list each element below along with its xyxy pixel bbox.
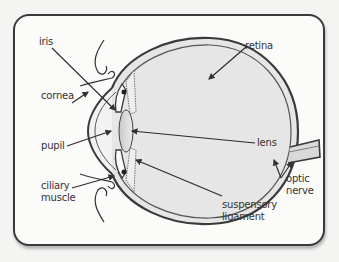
label-lens: lens xyxy=(257,137,277,149)
label-optic-nerve: optic nerve xyxy=(286,173,314,197)
label-ciliary-muscle: ciliary muscle xyxy=(41,180,76,204)
label-ciliary-muscle-line1: ciliary xyxy=(41,180,76,192)
label-suspensory-ligament: suspensory ligament xyxy=(222,199,277,223)
label-suspensory-ligament-line1: suspensory xyxy=(222,199,277,211)
lens xyxy=(119,110,133,152)
label-iris: iris xyxy=(39,36,53,48)
label-optic-nerve-line1: optic xyxy=(286,173,314,185)
diagram-canvas: iris retina cornea lens pupil optic nerv… xyxy=(0,0,339,262)
label-suspensory-ligament-line2: ligament xyxy=(222,211,277,223)
label-optic-nerve-line2: nerve xyxy=(286,185,314,197)
label-cornea: cornea xyxy=(41,90,74,102)
label-retina: retina xyxy=(245,40,273,52)
label-pupil: pupil xyxy=(41,140,65,152)
label-ciliary-muscle-line2: muscle xyxy=(41,192,76,204)
